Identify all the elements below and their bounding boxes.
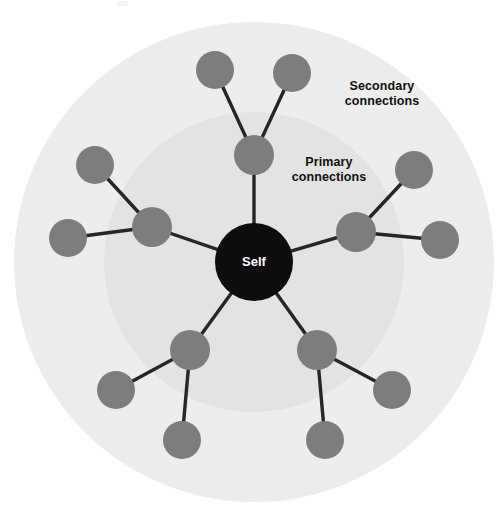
secondary-label-line2: connections [330, 94, 434, 109]
secondary-node[interactable] [97, 371, 135, 409]
primary-label-line1: Primary [277, 155, 381, 170]
primary-node[interactable] [132, 207, 172, 247]
primary-node[interactable] [297, 330, 337, 370]
self-node[interactable]: Self [215, 223, 293, 301]
primary-node[interactable] [336, 212, 376, 252]
network-canvas: Self [0, 0, 503, 519]
self-node-label: Self [242, 254, 267, 269]
secondary-node[interactable] [373, 371, 411, 409]
primary-node[interactable] [170, 330, 210, 370]
network-diagram: Self Secondary connections Primary conne… [0, 0, 503, 519]
primary-label-line2: connections [277, 170, 381, 185]
primary-connections-label: Primary connections [277, 155, 381, 186]
scan-artifact [118, 1, 128, 6]
secondary-node[interactable] [49, 219, 87, 257]
secondary-node[interactable] [421, 221, 459, 259]
secondary-node[interactable] [163, 421, 201, 459]
secondary-connections-label: Secondary connections [330, 79, 434, 110]
secondary-label-line1: Secondary [330, 79, 434, 94]
secondary-node[interactable] [306, 421, 344, 459]
secondary-node[interactable] [273, 54, 311, 92]
secondary-node[interactable] [76, 146, 114, 184]
secondary-node[interactable] [196, 51, 234, 89]
secondary-node[interactable] [395, 151, 433, 189]
primary-node[interactable] [234, 135, 274, 175]
